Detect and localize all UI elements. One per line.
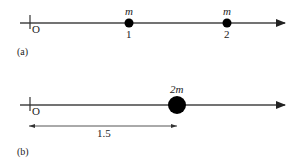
origin-label-a: O xyxy=(32,23,40,35)
mass-label-b: 2m xyxy=(170,83,184,95)
diagram-canvas: O m 1 m 2 (a) O 2m 1.5 (b) xyxy=(0,0,307,161)
mass-a-1 xyxy=(125,19,134,28)
mass-label-a-1: m xyxy=(125,5,133,17)
distance-label: 1.5 xyxy=(97,127,111,139)
mass-label-a-2: m xyxy=(223,5,231,17)
panel-b: O 2m 1.5 (b) xyxy=(17,83,285,158)
mass-a-2 xyxy=(223,19,232,28)
origin-label-b: O xyxy=(32,105,40,117)
mass-b xyxy=(168,96,186,114)
panel-label-b: (b) xyxy=(17,146,29,158)
position-label-a-2: 2 xyxy=(224,28,230,40)
panel-a: O m 1 m 2 (a) xyxy=(17,5,285,58)
panel-label-a: (a) xyxy=(17,46,28,58)
position-label-a-1: 1 xyxy=(126,28,132,40)
